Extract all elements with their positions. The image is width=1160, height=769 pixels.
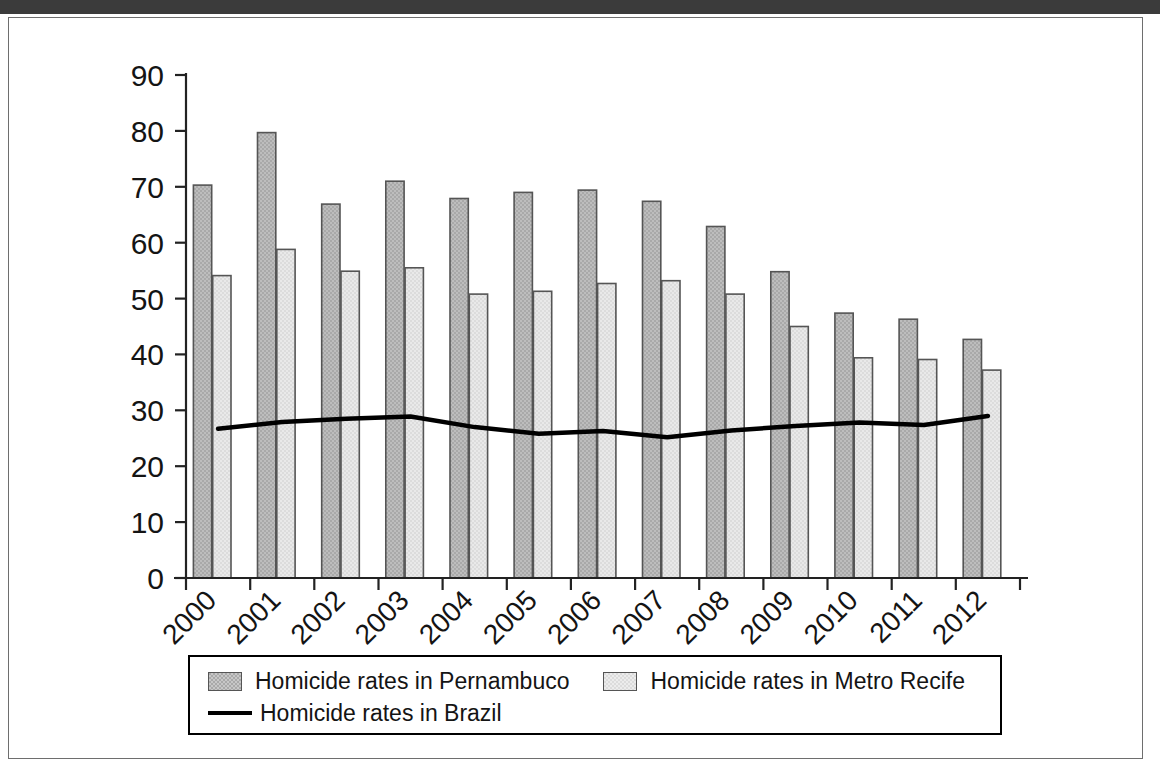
- x-tick-label-2006: 2006: [541, 584, 607, 650]
- x-tick-label-2011: 2011: [864, 584, 929, 649]
- bar-metro-recife-2008: [726, 294, 744, 578]
- bar-pernambuco-2005: [514, 192, 532, 578]
- legend-label-brazil: Homicide rates in Brazil: [260, 702, 502, 725]
- bar-pernambuco-2006: [578, 190, 596, 578]
- bar-pernambuco-2003: [386, 181, 404, 578]
- bar-pernambuco-2000: [193, 185, 211, 578]
- bar-pernambuco-2012: [963, 339, 981, 578]
- legend-label-pernambuco: Homicide rates in Pernambuco: [255, 670, 569, 693]
- bar-pernambuco-2001: [258, 133, 276, 578]
- x-tick-label-2010: 2010: [798, 584, 864, 650]
- bar-metro-recife-2002: [341, 271, 359, 578]
- legend-line-sample-brazil-icon: [208, 711, 252, 715]
- bar-pernambuco-2002: [322, 204, 340, 578]
- bar-metro-recife-2010: [854, 358, 872, 578]
- x-tick-label-2002: 2002: [285, 584, 351, 650]
- bar-metro-recife-2003: [405, 268, 423, 578]
- x-tick-label-2012: 2012: [926, 584, 992, 650]
- y-tick-label-20: 20: [131, 450, 164, 483]
- legend-row-top: Homicide rates in Pernambuco Homicide ra…: [190, 665, 1000, 697]
- x-tick-label-2007: 2007: [605, 584, 671, 650]
- y-tick-label-30: 30: [131, 394, 164, 427]
- bar-pernambuco-2010: [835, 313, 853, 578]
- x-tick-label-2003: 2003: [349, 584, 415, 650]
- bar-pernambuco-2007: [643, 201, 661, 578]
- x-tick-label-2000: 2000: [156, 584, 222, 650]
- legend-entry-metro-recife: Homicide rates in Metro Recife: [603, 670, 964, 693]
- y-tick-label-80: 80: [131, 115, 164, 148]
- legend-swatch-metro-recife-icon: [603, 672, 637, 691]
- y-tick-label-40: 40: [131, 338, 164, 371]
- chart-legend: Homicide rates in Pernambuco Homicide ra…: [188, 655, 1002, 735]
- bar-pernambuco-2008: [707, 227, 725, 579]
- y-axis-tick-labels: 0102030405060708090: [131, 59, 164, 595]
- bar-metro-recife-2012: [983, 370, 1001, 578]
- x-tick-label-2008: 2008: [670, 584, 736, 650]
- bar-metro-recife-2009: [790, 327, 808, 579]
- grouped-bar-line-chart: 0102030405060708090 20002001200220032004…: [0, 0, 1160, 769]
- legend-label-metro-recife: Homicide rates in Metro Recife: [650, 670, 964, 693]
- chart-page: 0102030405060708090 20002001200220032004…: [0, 0, 1160, 769]
- x-tick-label-2001: 2001: [220, 584, 286, 650]
- y-tick-label-0: 0: [147, 562, 164, 595]
- legend-swatch-pernambuco-icon: [208, 672, 242, 691]
- bar-metro-recife-2011: [918, 360, 936, 579]
- bar-metro-recife-2004: [469, 294, 487, 578]
- bar-pernambuco-2011: [899, 319, 917, 578]
- x-tick-label-2009: 2009: [734, 584, 800, 650]
- y-tick-label-10: 10: [131, 506, 164, 539]
- plot-area: 0102030405060708090 20002001200220032004…: [0, 0, 1160, 769]
- bar-metro-recife-2001: [277, 249, 295, 578]
- x-tick-label-2005: 2005: [477, 584, 543, 650]
- legend-row-bottom: Homicide rates in Brazil: [190, 697, 1000, 729]
- y-tick-label-90: 90: [131, 59, 164, 92]
- x-axis-tick-labels: 2000200120022003200420052006200720082009…: [156, 584, 992, 650]
- legend-entry-brazil: Homicide rates in Brazil: [208, 702, 502, 725]
- y-tick-label-60: 60: [131, 227, 164, 260]
- x-tick-label-2004: 2004: [413, 584, 479, 650]
- y-tick-label-70: 70: [131, 171, 164, 204]
- legend-entry-pernambuco: Homicide rates in Pernambuco: [208, 670, 569, 693]
- bar-pernambuco-2004: [450, 199, 468, 579]
- y-tick-label-50: 50: [131, 283, 164, 316]
- bar-metro-recife-2007: [662, 281, 680, 578]
